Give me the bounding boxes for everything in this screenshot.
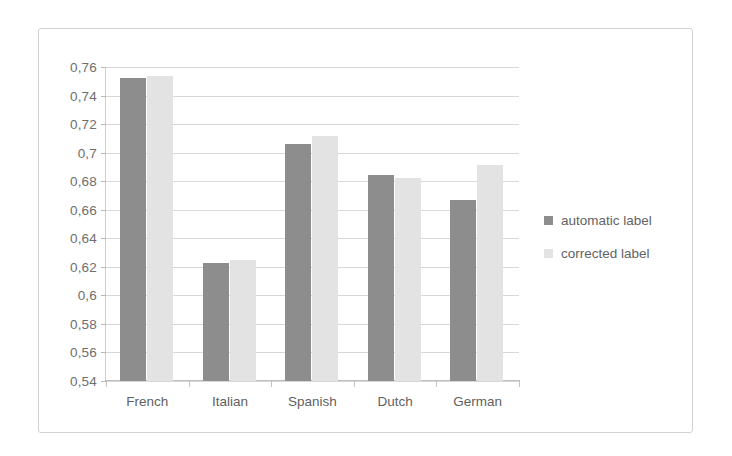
x-tick-mark (189, 381, 190, 387)
x-axis-label: Dutch (354, 394, 437, 409)
bar-group (271, 67, 354, 381)
bar (120, 78, 146, 381)
legend-swatch-icon (544, 216, 553, 225)
y-tick-label: 0,7 (78, 145, 97, 160)
x-tick-mark (436, 381, 437, 387)
x-axis-label: German (436, 394, 519, 409)
bar-group (106, 67, 189, 381)
y-tick-label: 0,76 (70, 60, 97, 75)
bar-group (189, 67, 272, 381)
bar-group (354, 67, 437, 381)
y-tick-label: 0,58 (70, 316, 97, 331)
x-axis-label: Italian (189, 394, 272, 409)
y-tick-label: 0,56 (70, 345, 97, 360)
bar (477, 165, 503, 381)
x-tick-mark (106, 381, 107, 387)
y-tick-label: 0,54 (70, 374, 97, 389)
y-tick-label: 0,66 (70, 202, 97, 217)
y-tick-label: 0,74 (70, 88, 97, 103)
bar (203, 263, 229, 381)
x-tick-mark (271, 381, 272, 387)
legend-label: corrected label (561, 246, 650, 261)
y-tick-label: 0,68 (70, 174, 97, 189)
bar (230, 260, 256, 381)
y-tick-label: 0,64 (70, 231, 97, 246)
bar (450, 200, 476, 381)
x-tick-mark (519, 381, 520, 387)
bar-group (436, 67, 519, 381)
y-tick-label: 0,6 (78, 288, 97, 303)
legend-item: automatic label (544, 204, 652, 237)
bar (147, 76, 173, 381)
legend-swatch-icon (544, 249, 553, 258)
plot-area: 0,760,740,720,70,680,660,640,620,60,580,… (106, 67, 519, 381)
gridline (106, 381, 519, 382)
x-tick-mark (354, 381, 355, 387)
bars-layer (106, 67, 519, 381)
bar (285, 144, 311, 381)
x-axis-label: Spanish (271, 394, 354, 409)
bar (368, 175, 394, 381)
bar (395, 178, 421, 381)
x-axis-label: French (106, 394, 189, 409)
y-tick-label: 0,62 (70, 259, 97, 274)
legend-item: corrected label (544, 237, 652, 270)
chart-legend: automatic labelcorrected label (544, 204, 652, 270)
chart-frame: 0,760,740,720,70,680,660,640,620,60,580,… (38, 28, 693, 433)
y-tick-label: 0,72 (70, 117, 97, 132)
bar (312, 136, 338, 381)
legend-label: automatic label (561, 213, 652, 228)
